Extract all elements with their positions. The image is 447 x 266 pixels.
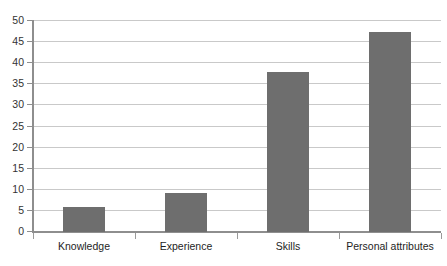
y-tick-label-0: 0 [2, 226, 24, 237]
category-label-knowledge: Knowledge [33, 240, 135, 253]
bar-chart: 50 45 40 35 30 25 20 15 10 5 0 Knowledge… [0, 0, 447, 266]
y-axis-labels: 50 45 40 35 30 25 20 15 10 5 0 [0, 0, 447, 266]
y-tick-label-20: 20 [2, 142, 24, 153]
x-tick-separator-3 [339, 233, 340, 239]
y-tick-label-45: 45 [2, 36, 24, 47]
y-tick-label-50: 50 [2, 15, 24, 26]
y-tick-label-25: 25 [2, 121, 24, 132]
y-tick-label-30: 30 [2, 99, 24, 110]
x-tick-separator-2 [237, 233, 238, 239]
x-tick-separator-0 [33, 233, 34, 239]
x-tick-separator-4 [441, 233, 442, 239]
y-tick-label-35: 35 [2, 78, 24, 89]
category-label-experience: Experience [135, 240, 237, 253]
category-label-skills: Skills [237, 240, 339, 253]
y-tick-label-15: 15 [2, 163, 24, 174]
category-label-personal-attributes: Personal attributes [339, 240, 441, 253]
x-tick-separator-1 [135, 233, 136, 239]
y-tick-label-5: 5 [2, 205, 24, 216]
y-tick-label-40: 40 [2, 57, 24, 68]
y-tick-label-10: 10 [2, 184, 24, 195]
